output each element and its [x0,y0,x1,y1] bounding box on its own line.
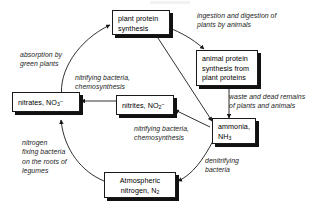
edge-label-ingestion: ingestion and digestion of plants by ani… [197,11,312,30]
node-ammonia-line1: ammonia, [218,122,250,131]
node-animal-protein-synthesis[interactable]: animal protein synthesis from plant prot… [196,50,258,86]
node-nitrates-superscript: – [60,98,63,104]
nitrogen-cycle-diagram: plant protein synthesis animal protein s… [0,0,320,219]
node-atmospheric-line2: nitrogen, N [121,186,157,195]
node-atmospheric-subscript: 2 [156,189,159,195]
node-nitrites-text: nitrites, NO [122,101,159,110]
node-plant-protein-synthesis[interactable]: plant protein synthesis [112,10,170,35]
edge-plant-to-animal-protein [172,29,204,49]
node-plant-protein-line2: synthesis [118,24,148,33]
scan-artifact [150,1,190,4]
node-nitrites[interactable]: nitrites, NO2– [116,95,174,115]
edge-label-denitrifying: denitrifying bacteria [205,156,267,175]
node-atmospheric-line1: Atmospheric [120,176,161,185]
node-atmospheric-nitrogen[interactable]: Atmospheric nitrogen, N2 [104,172,176,198]
edge-label-waste: waste and dead remains of plants and ani… [229,92,319,111]
node-nitrates-text: nitrates, NO [18,98,57,107]
node-nitrites-superscript: – [161,101,164,107]
edge-label-nitrifying-lower: nitrifying bacteria, chemosynthesis [134,124,219,143]
edge-label-absorption: absorption by green plants [20,50,95,69]
edge-label-nitrifying-upper: nitrifying bacteria, chemosynthesis [75,73,160,92]
node-ammonia-line2: NH [218,132,228,141]
node-animal-protein-line3: plant proteins [202,73,246,82]
node-nitrates[interactable]: nitrates, NO3– [12,92,80,112]
edge-label-nitrogen-fixing: nitrogen fixing bacteria on the roots of… [22,138,94,176]
node-plant-protein-line1: plant protein [118,14,158,23]
node-ammonia-subscript: 3 [228,135,231,141]
node-animal-protein-line1: animal protein [202,54,248,63]
node-animal-protein-line2: synthesis from [202,64,249,73]
